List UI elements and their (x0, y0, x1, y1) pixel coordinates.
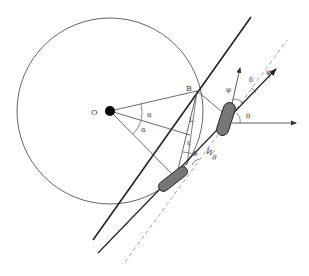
label-o: O (91, 108, 98, 117)
rear-wheel (157, 165, 190, 194)
front-wheel (215, 101, 237, 137)
label-delta: δ (249, 76, 253, 84)
radius-to-b (110, 91, 197, 111)
angle-arc-alpha-lower (133, 121, 141, 134)
angle-arc-alpha-upper (141, 104, 142, 121)
kinematics-diagram: O B α α L ε α WB φ θ δ ψ (0, 0, 309, 276)
line-b-to-lower-wheel (176, 91, 197, 178)
center-point-o (105, 106, 115, 116)
label-alpha-upper: α (147, 111, 152, 119)
label-theta: θ (246, 113, 250, 121)
line-b-to-upper-wheel (197, 91, 226, 115)
label-psi: ψ (266, 68, 272, 76)
label-alpha-small: α (193, 149, 198, 157)
label-b: B (186, 84, 192, 93)
label-epsilon: ε (187, 139, 191, 147)
label-width: WB (204, 147, 220, 162)
angle-arc-theta (236, 113, 240, 123)
vehicle-direction-line (98, 69, 276, 253)
label-l: L (189, 116, 194, 124)
label-alpha-lower: α (141, 126, 146, 134)
angle-arc-alpha-small (192, 159, 199, 165)
label-phi: φ (226, 86, 231, 94)
steering-direction-arrow (231, 68, 240, 108)
